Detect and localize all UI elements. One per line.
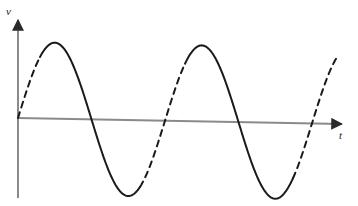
- waveform-segment-dashed-start: [18, 57, 40, 118]
- waveform-segment-dashed-middle: [140, 64, 185, 187]
- waveform-segment-dashed-end: [293, 58, 337, 178]
- x-axis-label: t: [339, 130, 342, 141]
- x-axis: [18, 118, 342, 124]
- y-axis-label: v: [6, 6, 11, 17]
- waveform-figure: v t: [0, 0, 358, 206]
- plot-canvas: [0, 0, 358, 206]
